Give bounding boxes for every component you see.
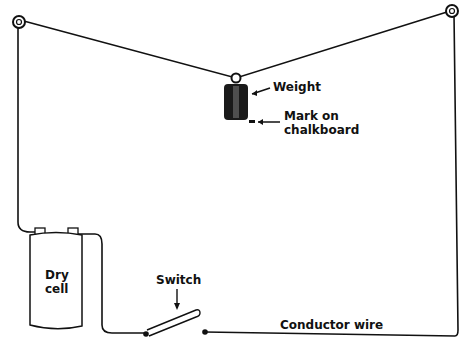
mark-label-line2: chalkboard [284,123,359,137]
weight-label: Weight [273,80,321,94]
wire-left [18,22,40,232]
mark-label-line1: Mark on [284,109,339,123]
wire-bottom-right [205,14,458,336]
wire-cell-to-switch [75,234,146,333]
left-pulley-icon [13,16,25,28]
chalk-mark [249,120,255,123]
cell-label-line2: cell [45,282,68,296]
circuit-diagram [0,0,466,351]
switch-icon [143,310,208,337]
weight-icon [224,74,248,121]
wire-top [20,12,447,78]
right-pulley-icon [446,5,458,17]
switch-label: Switch [156,273,201,287]
cell-label-line1: Dry [45,268,69,282]
wire-label: Conductor wire [280,318,383,332]
